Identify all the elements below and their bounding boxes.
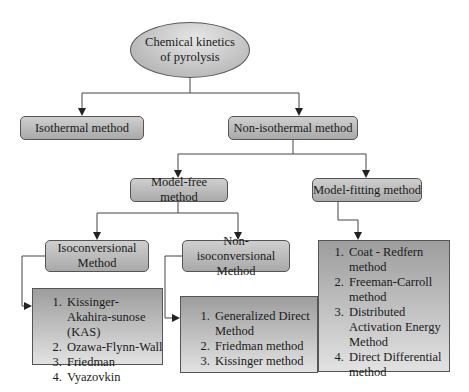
list-item: Kissinger method — [213, 354, 311, 369]
isoconversional-label: Isoconversional Method — [54, 241, 140, 271]
isoconversional-methods-list: Kissinger-Akahira-sunose (KAS) Ozawa-Fly… — [32, 288, 163, 365]
model-free-label: Model-free method — [131, 175, 227, 205]
list-item: Kissinger-Akahira-sunose (KAS) — [65, 295, 156, 340]
model-fitting-label: Model-fitting method — [313, 183, 421, 198]
non-isothermal-label: Non-isothermal method — [233, 121, 352, 136]
isoconversional-method-node: Isoconversional Method — [45, 240, 149, 272]
list-item: Distributed Activation Energy Method — [347, 305, 443, 350]
list-item: Vyazovkin — [65, 370, 156, 385]
model-fitting-methods-list: Coat - Redfern method Freeman-Carroll me… — [318, 240, 450, 372]
isothermal-label: Isothermal method — [35, 121, 129, 136]
model-fitting-method-node: Model-fitting method — [312, 178, 422, 202]
list-item: Freeman-Carroll method — [347, 275, 443, 305]
list-item: Direct Differential method — [347, 350, 443, 380]
non-isothermal-method-node: Non-isothermal method — [228, 116, 358, 140]
isothermal-method-node: Isothermal method — [20, 116, 144, 140]
non-isoconversional-method-node: Non-isoconversional Method — [182, 240, 290, 272]
non-isoconversional-label: Non-isoconversional Method — [187, 234, 285, 279]
list-item: Friedman — [65, 355, 156, 370]
list-item: Ozawa-Flynn-Wall — [65, 340, 156, 355]
root-node-chemical-kinetics: Chemical kinetics of pyrolysis — [130, 22, 250, 78]
model-free-method-node: Model-free method — [130, 178, 228, 202]
non-isoconversional-methods-list: Generalized Direct Method Friedman metho… — [180, 296, 318, 373]
list-item: Generalized Direct Method — [213, 309, 311, 339]
list-item: Friedman method — [213, 339, 311, 354]
root-label: Chemical kinetics of pyrolysis — [141, 35, 239, 65]
list-item: Coat - Redfern method — [347, 245, 443, 275]
